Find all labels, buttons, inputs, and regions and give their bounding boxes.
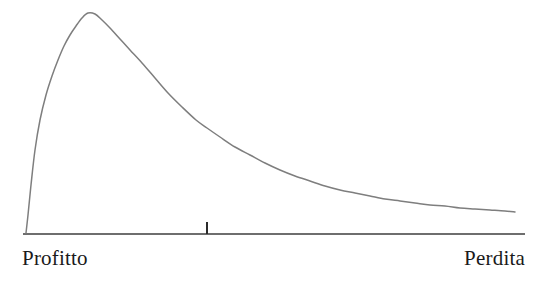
axis-label-loss: Perdita bbox=[464, 248, 525, 269]
distribution-curve bbox=[26, 13, 515, 233]
figure-container: Profitto Perdita bbox=[0, 0, 537, 282]
distribution-plot bbox=[0, 0, 537, 282]
axis-label-profit: Profitto bbox=[22, 248, 88, 269]
